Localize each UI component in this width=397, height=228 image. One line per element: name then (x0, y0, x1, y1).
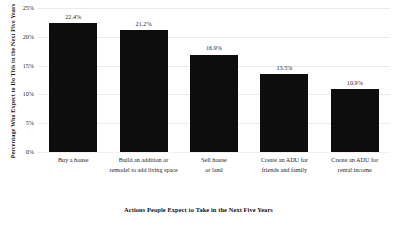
x-label-line: rental income (338, 166, 372, 173)
x-label-line: Buy a house (58, 156, 89, 163)
bar-value-label: 10.9% (323, 80, 387, 86)
y-axis-tick-label: 20% (8, 34, 34, 40)
x-axis-title: Actions People Expect to Take in the Nex… (0, 206, 397, 213)
bar-value-label: 13.5% (252, 65, 316, 71)
y-axis-tick-label: 5% (8, 120, 34, 126)
x-axis-category-label: Sell houseor land (176, 155, 252, 174)
bars-layer: 22.4%21.2%16.9%13.5%10.9% (38, 8, 390, 152)
y-axis-tick-label: 15% (8, 63, 34, 69)
x-label-line: remodel to add living space (109, 166, 177, 173)
gridline (38, 152, 390, 153)
x-label-line: friends and family (262, 166, 307, 173)
bar[interactable] (331, 89, 379, 152)
x-axis-category-label: Buy a house (35, 155, 111, 165)
bar[interactable] (190, 55, 238, 152)
bar-group: 22.4% (41, 8, 105, 152)
y-axis-tick-label: 0% (8, 149, 34, 155)
x-axis-category-labels: Buy a houseBuild an addition orremodel t… (38, 155, 390, 197)
x-label-line: or land (205, 166, 222, 173)
x-axis-category-label: Create an ADU forfriends and family (246, 155, 322, 174)
y-axis-tick-label: 25% (8, 5, 34, 11)
x-label-line: Create an ADU for (331, 156, 378, 163)
x-label-line: Create an ADU for (261, 156, 308, 163)
x-axis-category-label: Build an addition orremodel to add livin… (106, 155, 182, 174)
x-label-line: Build an addition or (119, 156, 169, 163)
bar[interactable] (49, 23, 97, 152)
plot-area: 22.4%21.2%16.9%13.5%10.9% (38, 8, 390, 152)
bar-group: 13.5% (252, 8, 316, 152)
y-axis-tick-label: 10% (8, 91, 34, 97)
bar-group: 16.9% (182, 8, 246, 152)
bar-group: 21.2% (112, 8, 176, 152)
bar-value-label: 22.4% (41, 14, 105, 20)
bar-value-label: 21.2% (112, 21, 176, 27)
x-axis-category-label: Create an ADU forrental income (317, 155, 393, 174)
x-label-line: Sell house (201, 156, 227, 163)
bar[interactable] (260, 74, 308, 152)
bar-value-label: 16.9% (182, 45, 246, 51)
bar[interactable] (120, 30, 168, 152)
bar-group: 10.9% (323, 8, 387, 152)
bar-chart: Percentage Who Expect to Do This in the … (0, 0, 397, 228)
y-axis-tick-labels: 25%20%15%10%5%0% (4, 8, 34, 152)
